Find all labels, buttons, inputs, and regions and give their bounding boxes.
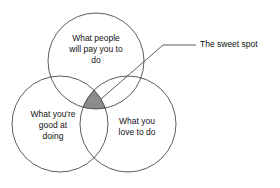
label-love: What you love to do — [112, 116, 162, 138]
sweet-spot-label: The sweet spot — [200, 39, 258, 49]
venn-diagram — [0, 0, 280, 188]
label-good: What you're good at doing — [20, 109, 86, 142]
label-pay: What people will pay you to do — [56, 33, 136, 66]
